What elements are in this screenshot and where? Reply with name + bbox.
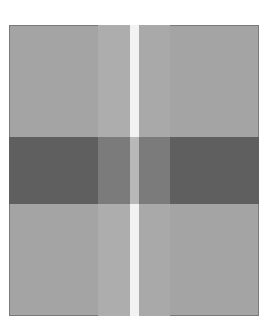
stripe-through-dark-band <box>130 137 139 204</box>
gray-square-frame <box>9 25 259 316</box>
